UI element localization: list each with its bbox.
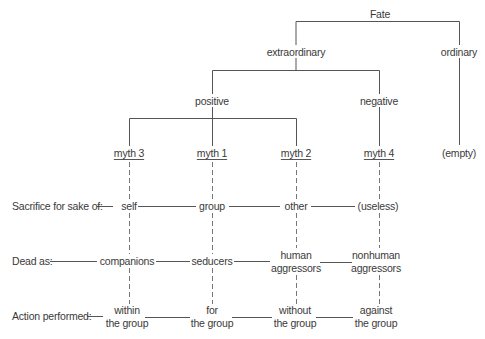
action-without-line2: the group <box>274 317 317 330</box>
row-label-sacrifice: Sacrifice for sake of: <box>12 200 103 212</box>
extraordinary-branch-line <box>213 71 380 95</box>
action-within-line1: within <box>106 304 149 317</box>
action-for-line2: the group <box>191 317 234 330</box>
action-for-line1: for <box>191 304 234 317</box>
node-negative: negative <box>360 95 398 107</box>
row-label-action: Action performed: <box>12 310 91 322</box>
dead-nonhuman-line2: aggressors <box>351 262 401 275</box>
dead-human-aggressors: human aggressors <box>271 249 321 275</box>
fate-branch-line <box>296 22 460 46</box>
action-without-line1: without <box>274 304 317 317</box>
action-within: within the group <box>106 304 149 330</box>
sacrifice-useless: (useless) <box>358 200 399 212</box>
node-myth-1: myth 1 <box>197 147 227 159</box>
row-label-dead: Dead as: <box>12 255 52 267</box>
node-positive: positive <box>195 95 229 107</box>
dead-nonhuman-aggressors: nonhuman aggressors <box>351 249 401 275</box>
action-against-line1: against <box>355 304 398 317</box>
action-against-line2: the group <box>355 317 398 330</box>
action-within-line2: the group <box>106 317 149 330</box>
dead-companions: companions <box>100 255 155 267</box>
sacrifice-other: other <box>285 200 308 212</box>
node-fate: Fate <box>370 8 390 20</box>
node-myth-2: myth 2 <box>281 147 311 159</box>
node-empty: (empty) <box>442 147 476 159</box>
dead-human-line1: human <box>271 249 321 262</box>
sacrifice-group: group <box>199 200 225 212</box>
action-against: against the group <box>355 304 398 330</box>
node-ordinary: ordinary <box>441 46 477 58</box>
diagram-connectors <box>0 0 485 339</box>
node-myth-3: myth 3 <box>114 147 144 159</box>
node-myth-4: myth 4 <box>364 147 394 159</box>
node-extraordinary: extraordinary <box>267 46 326 58</box>
sacrifice-self: self <box>121 200 137 212</box>
dead-human-line2: aggressors <box>271 262 321 275</box>
dead-seducers: seducers <box>191 255 232 267</box>
action-without: without the group <box>274 304 317 330</box>
dead-nonhuman-line1: nonhuman <box>351 249 401 262</box>
action-for: for the group <box>191 304 234 330</box>
